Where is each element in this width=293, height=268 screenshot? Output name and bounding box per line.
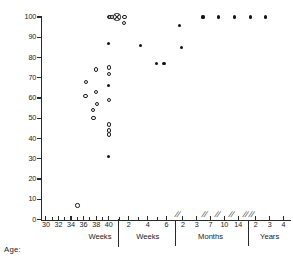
x-tick-3-4 xyxy=(283,216,284,220)
data-point-filled xyxy=(155,62,158,65)
x-tick-0-32 xyxy=(58,216,59,220)
x-tick-minor xyxy=(102,217,103,220)
y-tick-10 xyxy=(37,199,41,200)
x-tick-minor xyxy=(52,217,53,220)
data-point-filled xyxy=(249,15,252,18)
data-point-open xyxy=(75,203,79,207)
x-tick-0-30 xyxy=(45,216,46,220)
axis-break-2: // xyxy=(214,211,222,219)
data-point-filled xyxy=(201,15,204,18)
y-axis-line xyxy=(41,16,42,220)
x-tick-minor xyxy=(77,217,78,220)
data-point-open xyxy=(107,72,111,76)
data-point-open xyxy=(107,122,111,126)
y-tick-label-0: 0 xyxy=(10,216,36,223)
x-tick-label-1-4: 4 xyxy=(138,221,158,229)
data-point-open xyxy=(91,116,95,120)
y-tick-label-90: 90 xyxy=(10,33,36,40)
y-tick-90 xyxy=(37,37,41,38)
y-tick-30 xyxy=(37,158,41,159)
y-tick-label-100: 100 xyxy=(10,13,36,20)
y-tick-label-30: 30 xyxy=(10,155,36,162)
data-point-open xyxy=(95,102,99,106)
x-tick-2-3 xyxy=(196,216,197,220)
axis-break-0: // xyxy=(174,211,182,219)
data-point-crossed xyxy=(113,13,120,20)
data-point-filled xyxy=(180,46,183,49)
x-tick-0-36 xyxy=(83,216,84,220)
y-tick-70 xyxy=(37,77,41,78)
x-tick-3-2 xyxy=(255,216,256,220)
data-point-filled xyxy=(107,42,110,45)
x-tick-label-0-40: 40 xyxy=(99,221,119,229)
y-tick-label-80: 80 xyxy=(10,54,36,61)
data-point-open xyxy=(107,98,111,102)
x-tick-0-34 xyxy=(70,216,71,220)
y-tick-label-20: 20 xyxy=(10,175,36,182)
data-point-filled xyxy=(107,84,110,87)
x-tick-minor xyxy=(157,217,158,220)
x-tick-3-3 xyxy=(269,216,270,220)
data-point-open xyxy=(83,94,87,98)
x-tick-minor xyxy=(64,217,65,220)
y-tick-label-40: 40 xyxy=(10,135,36,142)
data-point-open xyxy=(94,67,98,71)
segment-label-postnatal-weeks: Weeks xyxy=(118,232,178,241)
age-axis-caption: Age: xyxy=(4,245,21,254)
data-point-filled xyxy=(217,15,220,18)
axis-break-1: // xyxy=(200,211,208,219)
x-tick-0-40 xyxy=(108,216,109,220)
y-tick-label-60: 60 xyxy=(10,94,36,101)
data-point-filled xyxy=(233,15,236,18)
y-tick-80 xyxy=(37,57,41,58)
scatter-plot-figure: 0102030405060708090100 30323436384024623… xyxy=(0,0,293,268)
x-tick-2-14 xyxy=(238,216,239,220)
y-tick-label-10: 10 xyxy=(10,195,36,202)
x-tick-minor xyxy=(119,217,120,220)
y-tick-50 xyxy=(37,118,41,119)
axis-break-3: // xyxy=(228,211,236,219)
x-tick-2-10 xyxy=(224,216,225,220)
x-tick-1-6 xyxy=(166,216,167,220)
data-point-open xyxy=(84,80,88,84)
y-tick-label-70: 70 xyxy=(10,74,36,81)
data-point-filled xyxy=(264,15,267,18)
x-tick-minor xyxy=(138,217,139,220)
x-tick-minor xyxy=(89,217,90,220)
data-point-open xyxy=(122,21,126,25)
y-tick-60 xyxy=(37,97,41,98)
x-tick-label-3-4: 4 xyxy=(273,221,293,229)
y-tick-100 xyxy=(37,16,41,17)
x-tick-1-4 xyxy=(147,216,148,220)
data-point-open xyxy=(122,15,126,19)
y-tick-label-50: 50 xyxy=(10,114,36,121)
x-tick-1-2 xyxy=(128,216,129,220)
data-point-filled xyxy=(107,155,110,158)
data-point-filled xyxy=(178,24,181,27)
x-tick-2-2 xyxy=(182,216,183,220)
data-point-open xyxy=(107,132,111,136)
x-tick-label-1-2: 2 xyxy=(119,221,139,229)
data-point-filled xyxy=(162,62,165,65)
x-tick-2-7 xyxy=(210,216,211,220)
segment-label-years: Years xyxy=(240,232,293,241)
y-tick-20 xyxy=(37,178,41,179)
data-point-open xyxy=(107,65,111,69)
y-tick-40 xyxy=(37,138,41,139)
data-point-open xyxy=(91,108,95,112)
data-point-filled xyxy=(139,44,142,47)
data-point-open xyxy=(94,90,98,94)
x-tick-0-38 xyxy=(96,216,97,220)
segment-label-months: Months xyxy=(181,232,241,241)
